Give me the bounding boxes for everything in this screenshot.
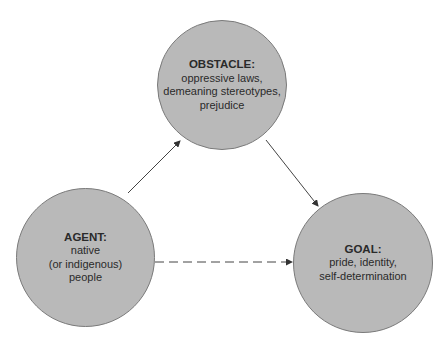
goal-line: pride, identity, — [329, 256, 397, 270]
edge-obstacle-to-goal — [266, 140, 318, 206]
obstacle-line: oppressive laws, — [181, 72, 262, 86]
obstacle-node: OBSTACLE: oppressive laws, demeaning ste… — [157, 20, 287, 150]
agent-line: people — [69, 271, 102, 285]
obstacle-title: OBSTACLE: — [189, 58, 255, 72]
goal-line: self-determination — [319, 270, 406, 284]
goal-node: GOAL: pride, identity, self-determinatio… — [293, 193, 433, 333]
goal-title: GOAL: — [344, 243, 381, 257]
obstacle-line: demeaning stereotypes, — [163, 85, 280, 99]
agent-title: AGENT: — [64, 231, 107, 245]
agent-node: AGENT: native (or indigenous) people — [16, 188, 155, 327]
agent-line: native — [71, 244, 100, 258]
edge-agent-to-obstacle — [128, 141, 180, 193]
obstacle-line: prejudice — [200, 99, 245, 113]
agent-line: (or indigenous) — [49, 258, 122, 272]
